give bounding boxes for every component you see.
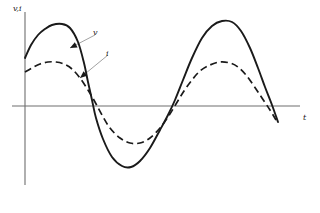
voltage-curve bbox=[25, 21, 278, 168]
curves-group bbox=[25, 21, 278, 168]
y-axis-label: v,i bbox=[13, 5, 22, 13]
axes-group bbox=[12, 12, 300, 185]
curve-annotation-i: i bbox=[106, 50, 109, 58]
current-curve bbox=[25, 62, 276, 144]
curve-annotation-v: v bbox=[93, 29, 98, 37]
x-axis-label: t bbox=[303, 114, 306, 122]
plot-canvas bbox=[0, 0, 320, 213]
waveform-figure: v,i t v i bbox=[0, 0, 320, 213]
